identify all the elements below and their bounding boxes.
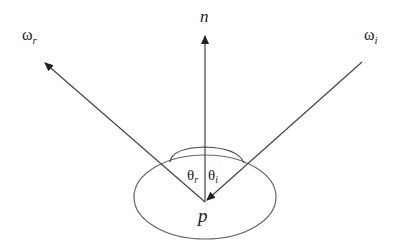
theta-i-label: θi bbox=[208, 167, 218, 185]
reflected-direction-vector bbox=[45, 63, 205, 202]
omega-r-subscript: r bbox=[33, 34, 38, 46]
point-p-label: p bbox=[196, 205, 208, 226]
omega-i-subscript: i bbox=[375, 34, 378, 46]
incident-direction-label: ωi bbox=[364, 26, 378, 46]
reflection-diagram: n ωr ωi θr θi p bbox=[0, 0, 406, 246]
incident-direction-vector bbox=[207, 62, 362, 200]
omega-r-symbol: ω bbox=[22, 26, 33, 43]
theta-i-subscript: i bbox=[215, 174, 218, 185]
theta-r-label: θr bbox=[187, 167, 198, 185]
reflected-direction-label: ωr bbox=[22, 26, 38, 46]
theta-r-symbol: θ bbox=[187, 167, 194, 183]
theta-r-subscript: r bbox=[194, 174, 198, 185]
omega-i-symbol: ω bbox=[364, 26, 375, 43]
normal-label: n bbox=[200, 7, 209, 26]
theta-i-symbol: θ bbox=[208, 167, 215, 183]
